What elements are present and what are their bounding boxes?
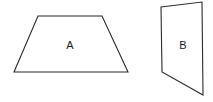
shapes-diagram (0, 0, 213, 102)
shape-b-label: B (179, 40, 186, 51)
figure-canvas: A B (0, 0, 213, 102)
shape-a-label: A (66, 40, 73, 51)
